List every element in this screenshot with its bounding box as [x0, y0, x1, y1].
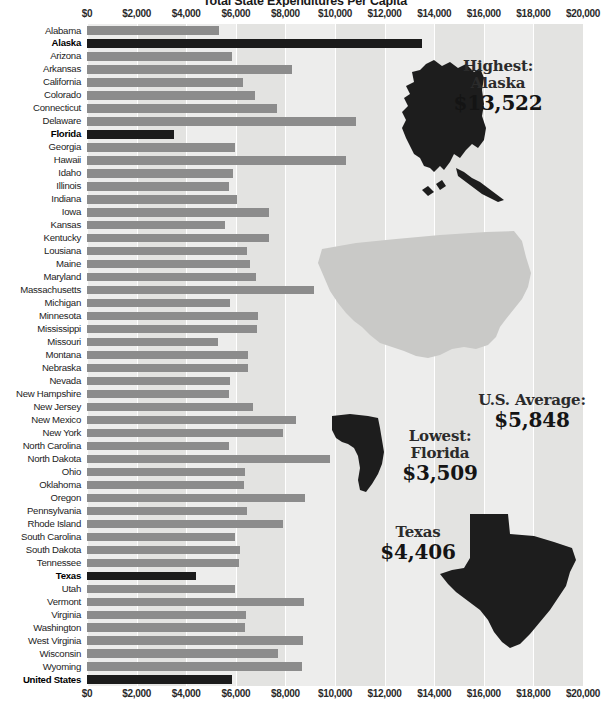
annotation-lowest-florida: Lowest: Florida $3,509 — [402, 428, 477, 484]
bar-row-label: West Virginia — [0, 635, 81, 646]
annotation-florida-line2: Florida — [402, 445, 477, 462]
bar-row-label: Illinois — [0, 180, 81, 191]
annotation-alaska-value: $13,522 — [453, 92, 542, 114]
bar — [87, 403, 253, 411]
bar-row: Utah — [0, 582, 610, 595]
bar-row: Maine — [0, 258, 610, 271]
bar — [87, 143, 235, 151]
bar-row: Tennessee — [0, 556, 610, 569]
bar — [87, 494, 305, 502]
chart-title: Total State Expenditures Per Capita — [0, 0, 610, 7]
bar-row-label: California — [0, 76, 81, 87]
bar-row-label: Wyoming — [0, 661, 81, 672]
bar — [87, 260, 250, 268]
x-axis-tick-label: $18,000 — [516, 8, 550, 19]
bar-row-label: Iowa — [0, 206, 81, 217]
bar — [87, 104, 277, 112]
bar-row-label: Colorado — [0, 89, 81, 100]
bar — [87, 611, 246, 619]
bar-row: Massachusetts — [0, 284, 610, 297]
bar-row: Wyoming — [0, 660, 610, 673]
bar-row-label: Indiana — [0, 193, 81, 204]
bar — [87, 78, 243, 86]
bar — [87, 299, 230, 307]
bar-row-label: Ohio — [0, 466, 81, 477]
annotation-florida-value: $3,509 — [402, 462, 477, 484]
bar — [87, 623, 245, 631]
bar-row-label: Montana — [0, 349, 81, 360]
bar-row: Maryland — [0, 271, 610, 284]
bar-row-label: Missouri — [0, 336, 81, 347]
bar-row-label: New Mexico — [0, 414, 81, 425]
annotation-texas-value: $4,406 — [380, 541, 455, 563]
x-axis-tick-label: $14,000 — [417, 688, 451, 699]
bar — [87, 273, 256, 281]
bar — [87, 26, 219, 34]
bar — [87, 312, 258, 320]
bar-row-label: New Hampshire — [0, 388, 81, 399]
annotation-florida-line1: Lowest: — [402, 428, 477, 445]
bar-row-label: Washington — [0, 622, 81, 633]
x-axis-tick-label: $4,000 — [172, 8, 201, 19]
bar-row: North Carolina — [0, 439, 610, 452]
bar-row-label: Minnesota — [0, 310, 81, 321]
bar-row: Iowa — [0, 206, 610, 219]
bar-row: Ohio — [0, 465, 610, 478]
bar-row-label: Oklahoma — [0, 479, 81, 490]
bar — [87, 286, 314, 294]
x-axis-tick-label: $20,000 — [566, 688, 600, 699]
annotation-us-average: U.S. Average: $5,848 — [478, 392, 586, 431]
bar-row-label: Kentucky — [0, 232, 81, 243]
bar — [87, 675, 232, 683]
bar-row-label: Alabama — [0, 25, 81, 36]
bar-row-label: North Carolina — [0, 440, 81, 451]
bar-row-label: Oregon — [0, 492, 81, 503]
bar-row: Lousiana — [0, 245, 610, 258]
bar-row-label: Delaware — [0, 115, 81, 126]
bar — [87, 156, 346, 164]
bar-row-label: Hawaii — [0, 154, 81, 165]
bar-row: Nebraska — [0, 361, 610, 374]
x-axis-tick-label: $16,000 — [467, 688, 501, 699]
bar — [87, 455, 330, 463]
bar — [87, 39, 422, 47]
bar-row-label: Vermont — [0, 596, 81, 607]
bar-row-label: United States — [0, 674, 81, 685]
annotation-highest-alaska: Highest: Alaska $13,522 — [453, 58, 542, 114]
bar-row-label: Alaska — [0, 37, 81, 48]
bar-row: Kentucky — [0, 232, 610, 245]
x-axis-tick-label: $0 — [82, 8, 93, 19]
bar — [87, 221, 225, 229]
bar-row: Alaska — [0, 37, 610, 50]
bar-row: Vermont — [0, 595, 610, 608]
bar-row: Wisconsin — [0, 647, 610, 660]
bar-row-label: Tennessee — [0, 557, 81, 568]
annotation-average-value: $5,848 — [478, 409, 586, 431]
bar-row: Rhode Island — [0, 517, 610, 530]
bar-row-label: Michigan — [0, 297, 81, 308]
bar-row-label: Texas — [0, 570, 81, 581]
bar — [87, 636, 303, 644]
bar — [87, 416, 296, 424]
bar-row-label: South Dakota — [0, 544, 81, 555]
x-axis-tick-label: $6,000 — [221, 8, 250, 19]
x-axis-tick-label: $2,000 — [122, 688, 151, 699]
bar-row-label: Nebraska — [0, 362, 81, 373]
bar — [87, 507, 247, 515]
bar — [87, 117, 356, 125]
x-axis-tick-label: $10,000 — [318, 688, 352, 699]
annotation-texas: Texas $4,406 — [380, 524, 455, 563]
bar-row: West Virginia — [0, 634, 610, 647]
bar-row-label: Rhode Island — [0, 518, 81, 529]
bar-row: Oklahoma — [0, 478, 610, 491]
bar — [87, 195, 237, 203]
bar — [87, 598, 304, 606]
annotation-alaska-line1: Highest: — [453, 58, 542, 75]
bar — [87, 559, 239, 567]
x-axis-bottom: $0$2,000$4,000$6,000$8,000$10,000$12,000… — [0, 688, 610, 701]
bar — [87, 468, 245, 476]
bar — [87, 585, 235, 593]
bar-row-label: Wisconsin — [0, 648, 81, 659]
x-axis-tick-label: $14,000 — [417, 8, 451, 19]
bar-row-label: Pennsylvania — [0, 505, 81, 516]
